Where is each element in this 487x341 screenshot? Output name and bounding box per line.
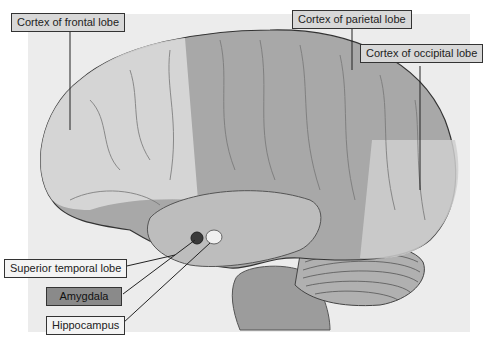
label-hippocampus: Hippocampus — [46, 316, 125, 335]
frontal-region — [41, 38, 198, 210]
occipital-region — [360, 140, 458, 259]
label-occipital-lobe: Cortex of occipital lobe — [360, 44, 483, 63]
label-frontal-lobe: Cortex of frontal lobe — [11, 13, 125, 32]
label-superior-temporal-lobe: Superior temporal lobe — [4, 259, 127, 278]
label-parietal-lobe: Cortex of parietal lobe — [292, 10, 412, 29]
label-amygdala: Amygdala — [46, 287, 122, 306]
hippocampus-structure — [206, 230, 222, 244]
